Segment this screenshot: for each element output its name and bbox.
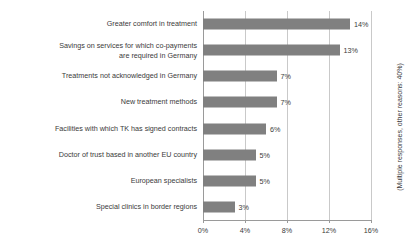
bar[interactable]	[203, 71, 277, 82]
x-tick-label: 12%	[322, 226, 336, 235]
category-label: European specialists	[4, 176, 197, 185]
bar-track: 5%	[203, 142, 405, 168]
bar-chart: Greater comfort in treatment 14% Savings…	[0, 0, 405, 246]
x-tick	[245, 220, 246, 223]
bar[interactable]	[203, 175, 256, 186]
x-tick	[203, 220, 204, 223]
x-tick-label: 0%	[198, 226, 208, 235]
category-label: Greater comfort in treatment	[4, 19, 197, 28]
bar-row: Savings on services for which co-payment…	[0, 37, 405, 63]
bar-track: 7%	[203, 89, 405, 115]
bar-value-label: 5%	[260, 176, 270, 185]
bar-rows: Greater comfort in treatment 14% Savings…	[0, 11, 405, 220]
x-tick-label: 16%	[364, 226, 378, 235]
bar-track: 14%	[203, 11, 405, 37]
bar-value-label: 6%	[270, 124, 280, 133]
bar[interactable]	[203, 45, 340, 56]
bar[interactable]	[203, 201, 235, 212]
bar-track: 3%	[203, 194, 405, 220]
x-tick-label: 4%	[240, 226, 250, 235]
category-label: Facilities with which TK has signed cont…	[4, 124, 197, 133]
bar-value-label: 13%	[344, 46, 358, 55]
x-tick	[329, 220, 330, 223]
bar-value-label: 7%	[281, 98, 291, 107]
bar-value-label: 5%	[260, 150, 270, 159]
category-label: Doctor of trust based in another EU coun…	[4, 150, 197, 159]
bar-row: Doctor of trust based in another EU coun…	[0, 142, 405, 168]
x-tick	[287, 220, 288, 223]
category-label: New treatment methods	[4, 98, 197, 107]
bar[interactable]	[203, 123, 266, 134]
chart-annotation-text: (Multiple responses, other reasons: 40%)	[396, 63, 403, 191]
bar-value-label: 3%	[239, 202, 249, 211]
bar-track: 13%	[203, 37, 405, 63]
bar-row: European specialists 5%	[0, 168, 405, 194]
bar-track: 5%	[203, 168, 405, 194]
bar-value-label: 14%	[354, 20, 368, 29]
bar-row: Special clinics in border regions 3%	[0, 194, 405, 220]
bar[interactable]	[203, 149, 256, 160]
bar-row: Facilities with which TK has signed cont…	[0, 116, 405, 142]
bar-row: Treatments not acknowledged in Germany 7…	[0, 63, 405, 89]
bar[interactable]	[203, 97, 277, 108]
bar-track: 7%	[203, 63, 405, 89]
x-tick-label: 8%	[282, 226, 292, 235]
category-label: Savings on services for which co-payment…	[4, 41, 197, 60]
bar[interactable]	[203, 19, 350, 30]
bar-value-label: 7%	[281, 72, 291, 81]
bar-track: 6%	[203, 116, 405, 142]
bar-row: Greater comfort in treatment 14%	[0, 11, 405, 37]
x-tick	[371, 220, 372, 223]
category-label: Treatments not acknowledged in Germany	[4, 72, 197, 81]
bar-row: New treatment methods 7%	[0, 89, 405, 115]
category-label: Special clinics in border regions	[4, 202, 197, 211]
chart-annotation: (Multiple responses, other reasons: 40%)	[393, 8, 405, 246]
